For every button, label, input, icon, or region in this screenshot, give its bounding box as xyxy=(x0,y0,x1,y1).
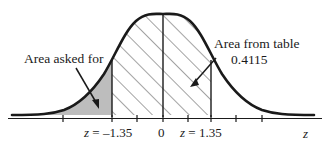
tick-label-negative-1-35: z = –1.35 xyxy=(84,126,132,139)
area-from-table-label: Area from table xyxy=(214,37,299,51)
tick-label-zero: 0 xyxy=(158,126,165,139)
normal-curve-plot xyxy=(0,0,329,155)
tick-label-positive-1-35: z = 1.35 xyxy=(180,126,222,139)
area-asked-for-label: Area asked for xyxy=(24,52,103,66)
area-from-table-value: 0.4115 xyxy=(231,53,268,67)
normal-curve-figure: Area asked for Area from table 0.4115 z … xyxy=(0,0,329,155)
axis-label-z: z xyxy=(303,127,308,140)
